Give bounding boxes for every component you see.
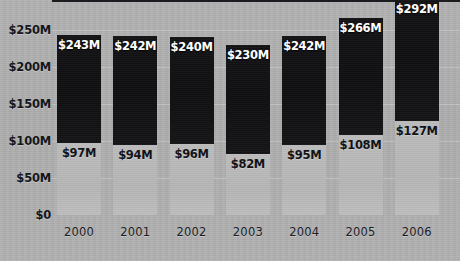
bar-segment-upper[interactable]: $240M <box>170 37 214 144</box>
bar-segment-upper[interactable]: $242M <box>113 36 157 146</box>
bar-2001[interactable]: $242M$94M <box>113 36 157 215</box>
bar-total-label: $242M <box>282 39 326 53</box>
bar-2006[interactable]: $292M$127M <box>395 0 439 215</box>
bar-2003[interactable]: $230M$82M <box>226 45 270 215</box>
bar-total-label: $266M <box>339 21 383 35</box>
bar-segment-lower[interactable]: $127M <box>395 121 439 215</box>
chart-container: $0$50M$100M$150M$200M$250M $243M$97M$242… <box>0 0 460 261</box>
bar-lower-label: $95M <box>282 148 326 162</box>
bar-segment-lower[interactable]: $94M <box>113 145 157 215</box>
x-axis-tick-2004: 2004 <box>282 225 326 239</box>
bar-lower-label: $97M <box>57 146 101 160</box>
bar-2000[interactable]: $243M$97M <box>57 35 101 215</box>
bar-segment-lower[interactable]: $95M <box>282 145 326 215</box>
bar-segment-lower[interactable]: $97M <box>57 143 101 215</box>
bar-total-label: $292M <box>395 2 439 16</box>
bar-lower-label: $82M <box>226 157 270 171</box>
x-axis-tick-2001: 2001 <box>113 225 157 239</box>
y-axis-tick-label: $250M <box>0 23 51 37</box>
bar-segment-upper[interactable]: $243M <box>57 35 101 143</box>
bar-segment-lower[interactable]: $82M <box>226 154 270 215</box>
bar-segment-upper[interactable]: $230M <box>226 45 270 155</box>
x-axis-tick-2002: 2002 <box>170 225 214 239</box>
bar-lower-label: $96M <box>170 147 214 161</box>
bar-2004[interactable]: $242M$95M <box>282 36 326 215</box>
bar-segment-upper[interactable]: $266M <box>339 18 383 135</box>
x-axis-tick-2000: 2000 <box>57 225 101 239</box>
y-axis-tick-label: $200M <box>0 60 51 74</box>
bar-2005[interactable]: $266M$108M <box>339 18 383 215</box>
plot-area: $0$50M$100M$150M$200M$250M $243M$97M$242… <box>0 0 460 261</box>
y-axis-tick-label: $50M <box>0 171 51 185</box>
bar-lower-label: $127M <box>395 124 439 138</box>
y-axis-tick-label: $100M <box>0 134 51 148</box>
bar-total-label: $242M <box>113 39 157 53</box>
bar-2002[interactable]: $240M$96M <box>170 37 214 215</box>
y-axis-tick-label: $0 <box>0 208 51 222</box>
bar-segment-lower[interactable]: $108M <box>339 135 383 215</box>
bar-segment-lower[interactable]: $96M <box>170 144 214 215</box>
bar-total-label: $240M <box>170 40 214 54</box>
x-axis-tick-2003: 2003 <box>226 225 270 239</box>
x-axis-tick-2005: 2005 <box>339 225 383 239</box>
y-axis-tick-label: $150M <box>0 97 51 111</box>
bar-lower-label: $108M <box>339 138 383 152</box>
bar-lower-label: $94M <box>113 148 157 162</box>
bar-total-label: $243M <box>57 38 101 52</box>
x-axis-tick-2006: 2006 <box>395 225 439 239</box>
bar-segment-upper[interactable]: $242M <box>282 36 326 145</box>
bar-segment-upper[interactable]: $292M <box>395 0 439 121</box>
bar-total-label: $230M <box>226 48 270 62</box>
